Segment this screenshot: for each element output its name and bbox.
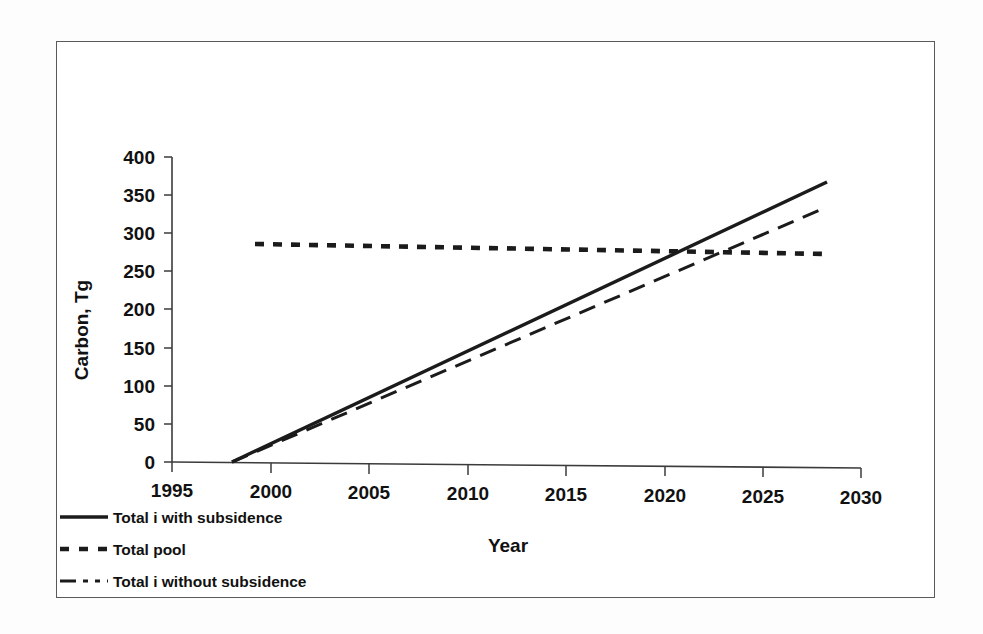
y-tick-label-100: 100 [123, 376, 155, 397]
x-tick-label-2020: 2020 [644, 485, 686, 506]
series-total-pool [255, 244, 827, 254]
x-tick-label-2015: 2015 [545, 484, 588, 505]
y-tick-label-200: 200 [123, 299, 155, 320]
y-axis-tick-labels: 400 350 300 250 200 150 100 50 0 [123, 147, 155, 473]
y-tick-label-250: 250 [123, 261, 155, 282]
legend-item-total-i-with-subsidence: Total i with subsidence [60, 509, 283, 526]
chart-canvas: 400 350 300 250 200 150 100 50 0 1995 20… [0, 0, 983, 634]
y-tick-label-400: 400 [123, 147, 155, 168]
x-axis-title: Year [488, 535, 529, 556]
x-tick-label-2005: 2005 [348, 482, 391, 503]
legend-item-total-pool: Total pool [60, 541, 186, 558]
y-tick-label-150: 150 [123, 338, 155, 359]
x-tick-label-2025: 2025 [742, 486, 785, 507]
legend-label-total-pool: Total pool [113, 541, 186, 558]
y-tick-label-50: 50 [134, 414, 155, 435]
legend-label-total-i-without-subsidence: Total i without subsidence [113, 573, 307, 590]
figure-root: 400 350 300 250 200 150 100 50 0 1995 20… [0, 0, 983, 634]
x-axis-line [172, 462, 861, 468]
legend-item-total-i-without-subsidence: Total i without subsidence [60, 573, 307, 590]
y-axis-title: Carbon, Tg [71, 280, 92, 380]
y-axis-ticks [164, 157, 172, 462]
y-tick-label-0: 0 [144, 452, 155, 473]
x-axis-tick-labels: 1995 2000 2005 2010 2015 2020 2025 2030 [151, 480, 882, 508]
series-total-i-with-subsidence [232, 182, 827, 462]
y-tick-label-350: 350 [123, 185, 155, 206]
x-tick-label-2000: 2000 [250, 481, 292, 502]
x-tick-label-2010: 2010 [447, 483, 489, 504]
y-tick-label-300: 300 [123, 223, 155, 244]
x-tick-label-2030: 2030 [840, 487, 882, 508]
chart-legend: Total i with subsidence Total pool Total… [60, 509, 307, 590]
legend-label-total-i-with-subsidence: Total i with subsidence [113, 509, 283, 526]
x-tick-label-1995: 1995 [151, 480, 194, 501]
series-total-i-without-subsidence [232, 207, 827, 462]
